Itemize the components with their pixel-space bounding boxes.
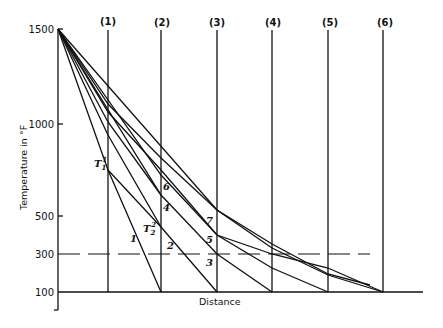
station-1-label: (1) [100,16,116,27]
station-4-label: (4) [265,17,281,28]
schmidt-diagram: 1500 1000 500 300 100 Temperature in °F … [0,0,443,328]
ytick-300: 300 [35,249,54,260]
station-3-label: (3) [209,17,225,28]
label-2: 2 [166,240,174,251]
x-axis-label: Distance [199,296,241,307]
station-2-label: (2) [154,17,170,28]
label-6: 6 [163,181,170,192]
station-6-label: (6) [377,17,393,28]
y-axis-label: Temperature in °F [18,125,29,211]
label-1: 1 [130,233,137,244]
ytick-1500: 1500 [29,24,54,35]
ytick-1000: 1000 [29,119,54,130]
label-3: 3 [206,257,213,268]
ytick-100: 100 [35,287,54,298]
label-4: 4 [163,202,170,213]
label-t2: T22 [143,220,156,237]
label-t1: T11 [94,155,107,172]
station-5-label: (5) [322,17,338,28]
label-5: 5 [206,234,213,245]
label-7: 7 [206,215,213,226]
ytick-500: 500 [35,211,54,222]
